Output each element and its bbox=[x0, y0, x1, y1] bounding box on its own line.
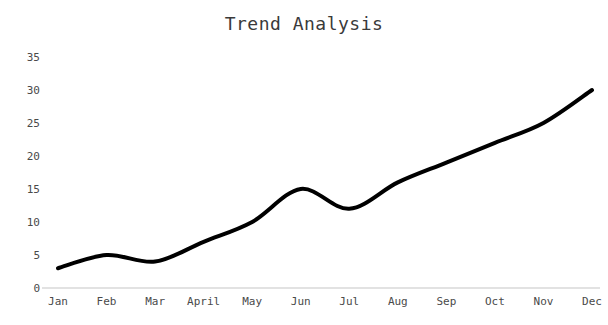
line-chart-svg bbox=[0, 0, 608, 325]
trend-line-path bbox=[58, 90, 592, 268]
plot-area: 05101520253035 JanFebMarAprilMayJunJulAu… bbox=[0, 0, 608, 325]
chart-page: Trend Analysis 05101520253035 JanFebMarA… bbox=[0, 0, 608, 325]
